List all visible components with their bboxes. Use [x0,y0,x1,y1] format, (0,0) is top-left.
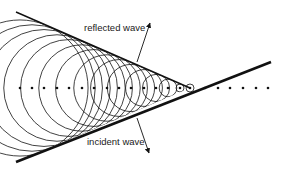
source-dot [267,87,270,90]
source-dot [106,87,109,90]
source-dot [217,87,220,90]
source-dot [68,87,71,90]
source-dot [143,87,146,90]
wavefront-circle [0,30,102,147]
source-dot [167,87,170,90]
source-dot [19,87,22,90]
source-dot [255,87,258,90]
reflected-wave-label: reflected wave [84,23,145,33]
source-dot [31,87,34,90]
source-dot [155,87,158,90]
source-dot [43,87,46,90]
incident-wavefront-line [16,62,271,162]
source-dot [56,87,59,90]
source-dot [81,87,84,90]
source-dots [19,87,270,90]
incident-wave-label: incident wave [87,137,145,147]
source-dot [242,87,245,90]
source-dot [118,87,121,90]
source-dot [93,87,96,90]
source-dot [130,87,133,90]
source-dot [179,87,182,90]
source-dot [229,87,232,90]
